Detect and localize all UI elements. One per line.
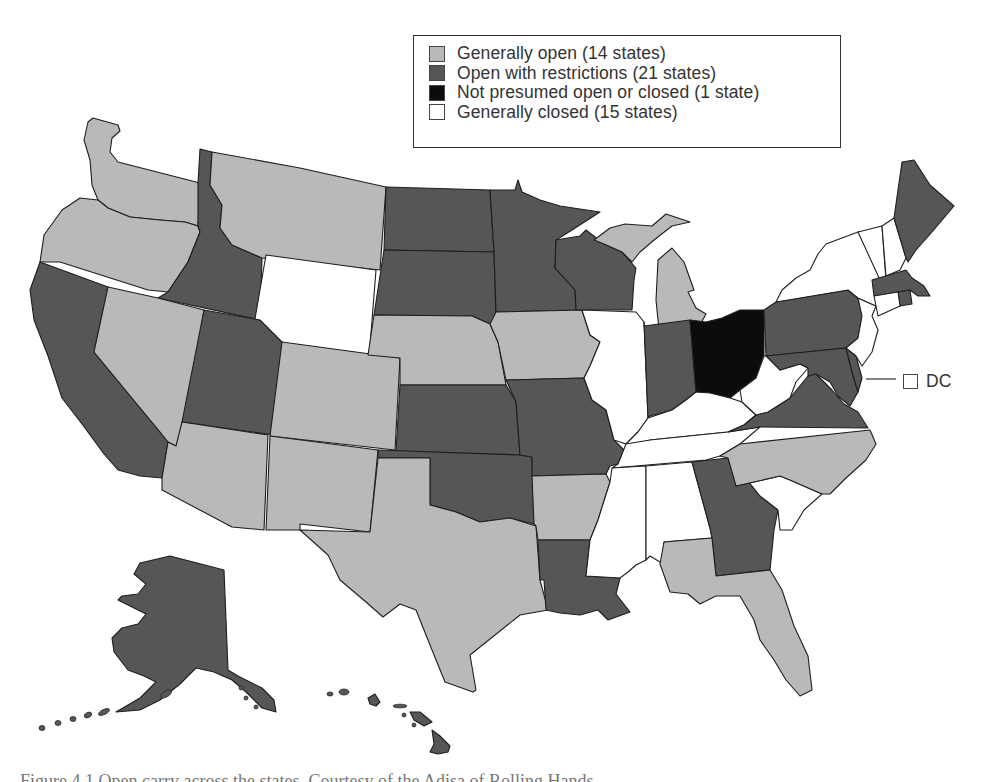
state-NM[interactable] <box>266 436 378 532</box>
state-AK[interactable] <box>112 556 276 712</box>
figure-caption: Figure 4.1 Open carry across the states.… <box>20 769 980 782</box>
legend-label: Generally closed (15 states) <box>457 102 678 123</box>
legend: Generally open (14 states) Open with res… <box>413 35 841 148</box>
legend-label: Open with restrictions (21 states) <box>457 63 716 84</box>
state-KS[interactable] <box>396 385 520 455</box>
legend-swatch-not-presumed <box>429 85 445 101</box>
dc-swatch[interactable] <box>903 374 918 389</box>
legend-swatch-generally-closed <box>429 104 445 120</box>
legend-item-open-with-restrictions: Open with restrictions (21 states) <box>429 64 840 84</box>
legend-item-generally-closed: Generally closed (15 states) <box>429 103 840 123</box>
legend-swatch-open-with-restrictions <box>429 65 445 81</box>
state-ME[interactable] <box>894 160 954 262</box>
dc-callout: DC <box>903 371 951 392</box>
legend-item-generally-open: Generally open (14 states) <box>429 44 840 64</box>
state-HI[interactable] <box>327 689 450 754</box>
state-CO[interactable] <box>270 342 400 450</box>
state-CT[interactable] <box>874 292 900 316</box>
state-ND[interactable] <box>384 187 494 252</box>
legend-swatch-generally-open <box>429 46 445 62</box>
state-IA[interactable] <box>490 310 600 380</box>
state-AZ[interactable] <box>162 422 268 530</box>
legend-label: Generally open (14 states) <box>457 43 666 64</box>
legend-item-not-presumed: Not presumed open or closed (1 state) <box>429 83 840 103</box>
state-SD[interactable] <box>374 250 496 324</box>
legend-label: Not presumed open or closed (1 state) <box>457 82 759 103</box>
dc-label: DC <box>926 371 951 392</box>
